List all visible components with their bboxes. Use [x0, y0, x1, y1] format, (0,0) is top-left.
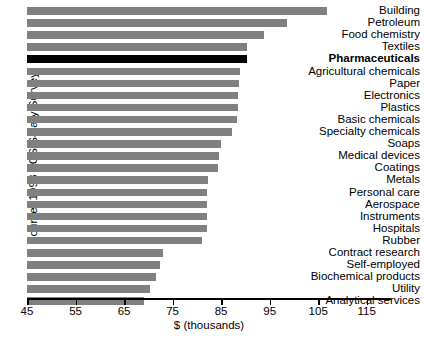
category-label: Instruments [360, 210, 420, 222]
category-label: Utility [392, 282, 420, 294]
bar-coatings [27, 164, 218, 172]
x-axis-title: $ (thousands) [27, 319, 391, 331]
bar-aerospace [27, 201, 207, 209]
bar-electronics [27, 92, 238, 100]
bar-food-chemistry [27, 31, 264, 39]
bar-specialty-chemicals [27, 128, 232, 136]
bar-textiles [27, 43, 247, 51]
salary-bar-chart: Source: 1998 ACS Salary Survey BuildingP… [0, 0, 424, 337]
bar-medical-devices [27, 152, 219, 160]
category-label: Self-employed [346, 258, 420, 270]
x-tick-label: 75 [166, 305, 179, 317]
x-tick-label: 55 [69, 305, 82, 317]
category-label: Metals [386, 173, 420, 185]
bar-self-employed [27, 261, 160, 269]
bar-personal-care [27, 189, 207, 197]
bar-soaps [27, 140, 221, 148]
category-label: Agricultural chemicals [308, 65, 420, 77]
bar-utility [27, 285, 150, 293]
bar-contract-research [27, 249, 163, 257]
category-label: Hospitals [373, 222, 420, 234]
bar-instruments [27, 213, 207, 221]
x-tick-label: 45 [21, 305, 34, 317]
category-label: Food chemistry [341, 28, 420, 40]
category-label: Pharmaceuticals [329, 52, 420, 64]
category-label: Electronics [364, 89, 420, 101]
category-label: Coatings [375, 161, 420, 173]
x-tick-label: 95 [263, 305, 276, 317]
category-label: Aerospace [365, 198, 420, 210]
category-label: Biochemical products [311, 270, 420, 282]
bar-metals [27, 176, 208, 184]
category-label: Paper [389, 77, 420, 89]
bar-hospitals [27, 225, 207, 233]
category-label: Rubber [382, 234, 420, 246]
category-label: Textiles [382, 40, 420, 52]
bar-pharmaceuticals [27, 55, 247, 63]
x-axis-line [27, 298, 391, 300]
category-label-list: BuildingPetroleumFood chemistryTextilesP… [240, 4, 422, 296]
bar-agricultural-chemicals [27, 68, 240, 76]
x-tick-label: 105 [309, 305, 328, 317]
category-label: Personal care [349, 186, 420, 198]
bar-biochemical-products [27, 273, 156, 281]
bar-paper [27, 80, 239, 88]
category-label: Petroleum [368, 16, 420, 28]
category-label: Building [379, 4, 420, 16]
x-tick-label: 115 [358, 305, 376, 317]
category-label: Medical devices [338, 149, 420, 161]
category-label: Basic chemicals [338, 113, 420, 125]
category-label: Plastics [380, 101, 420, 113]
x-tick-label: 65 [118, 305, 131, 317]
bar-plastics [27, 104, 238, 112]
bar-rubber [27, 237, 202, 245]
bar-basic-chemicals [27, 116, 237, 124]
category-label: Contract research [329, 246, 420, 258]
category-label: Soaps [387, 137, 420, 149]
x-tick-label: 85 [215, 305, 228, 317]
category-label: Specialty chemicals [319, 125, 420, 137]
